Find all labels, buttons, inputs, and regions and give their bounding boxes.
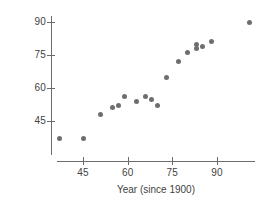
x-tick-mark — [172, 157, 173, 165]
x-tick-mark — [217, 157, 218, 165]
x-tick-label: 75 — [159, 168, 185, 178]
y-tick-mark — [47, 22, 55, 23]
plot-area: 45607590 45607590 — [0, 0, 270, 206]
x-axis-line — [57, 161, 255, 162]
x-tick-mark — [128, 157, 129, 165]
y-tick-label: 45 — [22, 116, 46, 126]
y-tick-mark — [47, 88, 55, 89]
data-point — [176, 59, 181, 64]
y-tick-label: 90 — [22, 17, 46, 27]
data-point — [247, 20, 252, 25]
x-tick-mark — [83, 157, 84, 165]
y-tick-label: 75 — [22, 50, 46, 60]
data-point — [155, 103, 160, 108]
y-tick-label: 60 — [22, 83, 46, 93]
x-tick-label: 60 — [115, 168, 141, 178]
data-point — [81, 136, 86, 141]
data-point — [116, 103, 121, 108]
data-point — [149, 97, 154, 102]
x-tick-label: 90 — [204, 168, 230, 178]
y-tick-mark — [47, 55, 55, 56]
y-tick-mark — [47, 121, 55, 122]
data-point — [57, 136, 62, 141]
data-point — [185, 50, 190, 55]
x-tick-label: 45 — [70, 168, 96, 178]
data-point — [122, 94, 127, 99]
data-point — [200, 44, 205, 49]
data-point — [110, 105, 115, 110]
data-point — [194, 46, 199, 51]
data-point — [209, 39, 214, 44]
scatter-plot-figure: 45607590 45607590 % Responding Yes Year … — [0, 0, 270, 206]
data-point — [143, 94, 148, 99]
data-point — [164, 75, 169, 80]
data-point — [98, 112, 103, 117]
data-point — [134, 99, 139, 104]
y-axis-line — [51, 16, 52, 155]
x-axis-title: Year (since 1900) — [57, 184, 255, 196]
